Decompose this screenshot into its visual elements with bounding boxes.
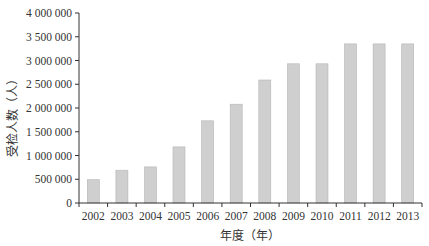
- bar-2004: [145, 167, 157, 203]
- y-tick-label: 1 000 000: [26, 150, 72, 162]
- x-axis-title: 年度（年）: [220, 228, 280, 243]
- bar-2013: [402, 44, 414, 203]
- bar-2006: [202, 121, 214, 203]
- bar-2010: [316, 64, 328, 203]
- bars-group: [87, 44, 413, 203]
- x-axis-ticks: 2002200320042005200620072008200920102011…: [79, 203, 422, 222]
- y-tick-label: 1 500 000: [26, 126, 72, 138]
- bar-2002: [87, 180, 99, 203]
- x-tick-label: 2010: [310, 210, 333, 222]
- x-tick-label: 2007: [225, 210, 248, 222]
- x-tick-label: 2005: [168, 210, 191, 222]
- x-tick-label: 2011: [339, 210, 362, 222]
- bar-2003: [116, 170, 128, 203]
- y-tick-label: 500 000: [35, 173, 73, 185]
- x-tick-label: 2008: [253, 210, 276, 222]
- y-tick-label: 4 000 000: [26, 7, 72, 19]
- bar-2011: [345, 44, 357, 203]
- x-tick-label: 2013: [396, 210, 419, 222]
- x-tick-label: 2012: [368, 210, 391, 222]
- y-tick-label: 3 000 000: [26, 55, 72, 67]
- x-tick-label: 2002: [82, 210, 105, 222]
- y-tick-label: 2 500 000: [26, 78, 72, 90]
- axes-group: [79, 13, 422, 203]
- x-tick-label: 2003: [110, 210, 133, 222]
- y-tick-label: 2 000 000: [26, 102, 72, 114]
- bar-2008: [259, 80, 271, 203]
- y-tick-label: 0: [66, 197, 72, 209]
- x-tick-label: 2006: [196, 210, 219, 222]
- x-tick-label: 2004: [139, 210, 162, 222]
- bar-2012: [373, 44, 385, 203]
- bar-2009: [287, 64, 299, 203]
- bar-chart: 0500 0001 000 0001 500 0002 000 0002 500…: [0, 0, 429, 246]
- x-tick-label: 2009: [282, 210, 305, 222]
- y-axis-title: 受检人数（人）: [5, 73, 20, 157]
- y-tick-label: 3 500 000: [26, 31, 72, 43]
- bar-2005: [173, 147, 185, 203]
- y-axis-ticks: 0500 0001 000 0001 500 0002 000 0002 500…: [26, 7, 79, 209]
- bar-2007: [230, 104, 242, 203]
